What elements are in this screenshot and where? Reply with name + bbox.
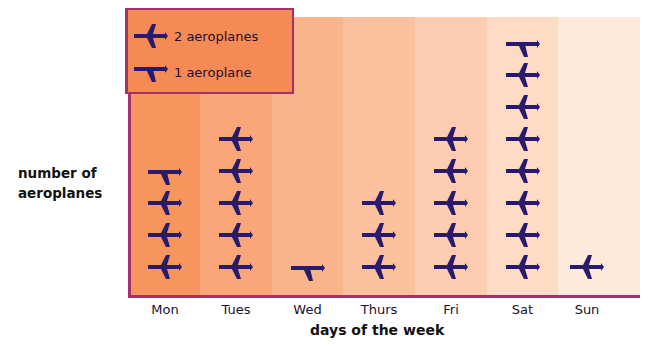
aeroplane-icon: [146, 253, 184, 281]
legend-item-full: 2 aeroplanes: [132, 22, 258, 50]
half-aeroplane-icon: [289, 257, 327, 285]
aeroplane-icon: [360, 221, 398, 249]
column-sun: [558, 17, 640, 296]
column-sat: [487, 17, 558, 296]
aeroplane-icon: [217, 125, 255, 153]
aeroplane-icon: [504, 61, 542, 89]
aeroplane-icon: [504, 221, 542, 249]
aeroplane-icon: [360, 253, 398, 281]
x-axis-label: days of the week: [310, 322, 444, 338]
legend: 2 aeroplanes 1 aeroplane: [125, 8, 294, 94]
y-axis-label: number of aeroplanes: [18, 163, 102, 203]
aeroplane-icon: [132, 22, 170, 50]
x-tick-label: Thurs: [343, 302, 415, 317]
x-tick-label: Tues: [200, 302, 272, 317]
half-aeroplane-icon: [146, 161, 184, 189]
y-axis-label-line2: aeroplanes: [18, 183, 102, 203]
aeroplane-icon: [504, 189, 542, 217]
x-tick-label: Mon: [129, 302, 201, 317]
aeroplane-icon: [568, 253, 606, 281]
aeroplane-icon: [432, 253, 470, 281]
aeroplane-icon: [360, 189, 398, 217]
aeroplane-icon: [146, 189, 184, 217]
aeroplane-icon: [217, 189, 255, 217]
aeroplane-icon: [432, 125, 470, 153]
column-thurs: [343, 17, 415, 296]
half-aeroplane-icon: [132, 58, 170, 86]
aeroplane-icon: [504, 157, 542, 185]
aeroplane-icon: [504, 253, 542, 281]
aeroplane-icon: [432, 189, 470, 217]
x-tick-label: Sun: [551, 302, 623, 317]
aeroplane-icon: [217, 221, 255, 249]
column-fri: [415, 17, 487, 296]
aeroplane-icon: [504, 125, 542, 153]
y-axis-line: [128, 88, 131, 298]
legend-label-full: 2 aeroplanes: [174, 29, 258, 44]
x-tick-label: Wed: [272, 302, 344, 317]
x-axis-line: [128, 295, 640, 298]
aeroplane-icon: [504, 93, 542, 121]
legend-label-half: 1 aeroplane: [174, 65, 251, 80]
x-tick-label: Sat: [487, 302, 559, 317]
y-axis-label-line1: number of: [18, 163, 102, 183]
aeroplane-icon: [217, 157, 255, 185]
half-aeroplane-icon: [504, 33, 542, 61]
aeroplane-icon: [432, 221, 470, 249]
x-tick-label: Fri: [415, 302, 487, 317]
aeroplane-icon: [432, 157, 470, 185]
legend-item-half: 1 aeroplane: [132, 58, 251, 86]
aeroplane-icon: [217, 253, 255, 281]
aeroplane-icon: [146, 221, 184, 249]
